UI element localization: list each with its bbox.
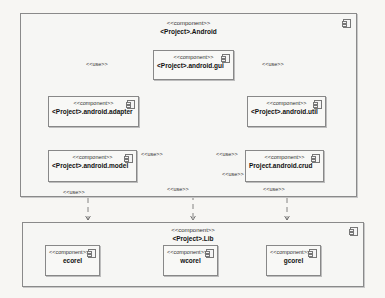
component-name: <Project>.android.model [52, 162, 136, 169]
component-name: Project.android.crud [249, 162, 323, 169]
component-icon [125, 154, 133, 163]
edge-label-crud-gcorel: <<use>> [263, 186, 285, 192]
edge-label-crud-model: <<use>> [222, 171, 244, 177]
component-gcorel[interactable]: <<component>> gcorel [266, 245, 321, 276]
component-stereotype: <<component>> [49, 154, 136, 160]
edge-label-model-ecorel: <<use>> [63, 189, 85, 195]
component-icon [309, 249, 317, 258]
component-stereotype: <<component>> [49, 100, 138, 106]
component-icon [88, 249, 96, 258]
container-title: <Project>.Lib [23, 235, 363, 242]
edge-label-gui-adapter: <<use>> [86, 61, 108, 67]
component-name: <Project>.android.adapter [52, 108, 138, 115]
component-name: wcorel [164, 257, 217, 264]
edge-label-gui-wcorel: <<use>> [167, 186, 189, 192]
container-stereotype: <<component>> [23, 227, 363, 233]
component-icon [127, 100, 135, 109]
component-name: gcorel [267, 257, 320, 264]
edge-label-gui-util: <<use>> [262, 61, 284, 67]
component-icon [206, 249, 214, 258]
container-stereotype: <<component>> [21, 20, 356, 26]
component-gui[interactable]: <<component>> <Project>.android.gui [153, 50, 234, 80]
component-icon [312, 154, 320, 163]
component-ecorel[interactable]: <<component>> ecorel [45, 245, 100, 276]
component-wcorel[interactable]: <<component>> wcorel [163, 245, 218, 276]
component-util[interactable]: <<component>> <Project>.android.util [247, 96, 326, 127]
edge-label-gui-crud: <<use>> [216, 151, 238, 157]
component-icon [343, 19, 351, 28]
component-name: <Project>.android.gui [157, 62, 233, 69]
component-icon [350, 227, 358, 236]
component-adapter[interactable]: <<component>> <Project>.android.adapter [48, 96, 139, 127]
component-name: <Project>.android.util [251, 108, 325, 115]
component-icon [314, 100, 322, 109]
component-icon [222, 54, 230, 63]
component-name: ecorel [46, 257, 99, 264]
component-model[interactable]: <<component>> <Project>.android.model [48, 150, 137, 182]
component-crud[interactable]: <<component>> Project.android.crud [245, 150, 324, 182]
edge-label-gui-model: <<use>> [141, 151, 163, 157]
container-title: <Project>.Android [21, 28, 356, 35]
